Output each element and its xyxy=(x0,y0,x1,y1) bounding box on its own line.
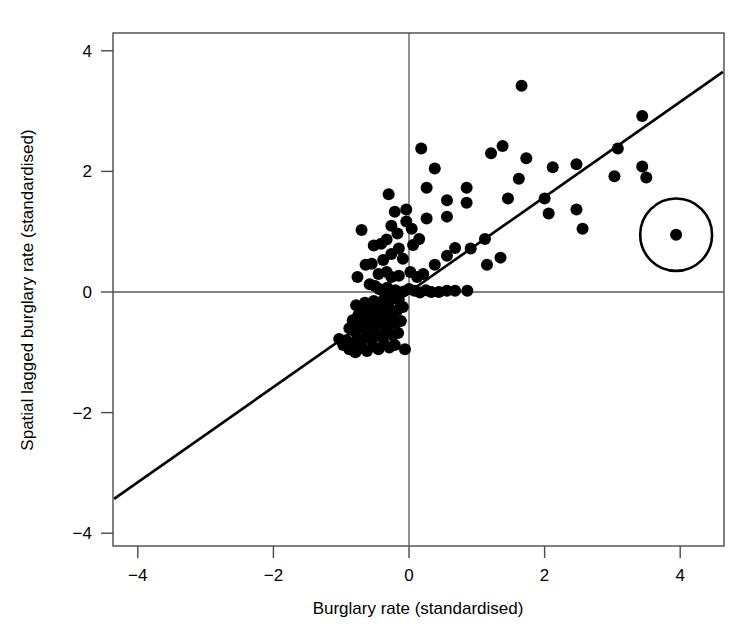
data-point xyxy=(429,259,441,271)
data-point xyxy=(400,203,412,215)
data-point xyxy=(497,140,509,152)
data-point xyxy=(441,211,453,223)
data-point xyxy=(461,182,473,194)
data-point xyxy=(608,170,620,182)
data-point xyxy=(421,212,433,224)
data-point xyxy=(636,110,648,122)
data-point xyxy=(481,259,493,271)
data-point xyxy=(570,203,582,215)
x-axis-ticks: −4−2024 xyxy=(128,546,685,585)
data-point xyxy=(479,233,491,245)
data-point xyxy=(429,162,441,174)
data-point xyxy=(570,158,582,170)
data-point xyxy=(415,142,427,154)
data-point xyxy=(397,253,409,265)
y-axis-title: Spatial lagged burglary rate (standardis… xyxy=(18,129,37,450)
data-point xyxy=(577,223,589,235)
data-point xyxy=(636,161,648,173)
data-point xyxy=(547,161,559,173)
data-point xyxy=(356,224,368,236)
moran-scatterplot: −4−2024 −4−2024 Burglary rate (standardi… xyxy=(0,0,753,639)
data-point xyxy=(406,223,418,235)
y-tick-label: 2 xyxy=(83,162,92,181)
data-point xyxy=(502,193,514,205)
data-point xyxy=(343,322,355,334)
y-tick-label: 4 xyxy=(83,42,92,61)
data-point xyxy=(461,197,473,209)
x-tick-label: −4 xyxy=(128,566,147,585)
x-tick-label: 0 xyxy=(404,566,413,585)
y-tick-label: −4 xyxy=(73,524,92,543)
x-tick-label: 4 xyxy=(675,566,684,585)
data-point xyxy=(368,240,380,252)
data-point xyxy=(383,188,395,200)
data-point xyxy=(670,229,682,241)
data-point xyxy=(516,80,528,92)
data-point xyxy=(393,270,405,282)
data-point xyxy=(640,171,652,183)
data-point xyxy=(377,254,389,266)
data-point xyxy=(485,147,497,159)
data-point xyxy=(449,285,461,297)
data-points-group xyxy=(333,80,682,359)
data-point xyxy=(413,233,425,245)
scatter-plot-figure: −4−2024 −4−2024 Burglary rate (standardi… xyxy=(0,0,753,639)
data-point xyxy=(520,152,532,164)
regression-fit-line xyxy=(114,72,723,499)
data-point xyxy=(465,243,477,255)
y-tick-label: −2 xyxy=(73,404,92,423)
data-point xyxy=(399,343,411,355)
data-point xyxy=(612,142,624,154)
data-point xyxy=(333,333,345,345)
data-point xyxy=(539,193,551,205)
data-point xyxy=(513,173,525,185)
data-point xyxy=(495,252,507,264)
data-point xyxy=(360,259,372,271)
data-point xyxy=(461,285,473,297)
y-tick-label: 0 xyxy=(83,283,92,302)
data-point xyxy=(417,268,429,280)
x-axis-title: Burglary rate (standardised) xyxy=(313,599,524,618)
data-point xyxy=(449,242,461,254)
x-tick-label: 2 xyxy=(540,566,549,585)
y-axis-ticks: −4−2024 xyxy=(73,42,113,543)
data-point xyxy=(421,182,433,194)
data-point xyxy=(543,208,555,220)
data-point xyxy=(351,271,363,283)
data-point xyxy=(391,228,403,240)
data-point xyxy=(441,194,453,206)
x-tick-label: −2 xyxy=(264,566,283,585)
data-point xyxy=(350,299,362,311)
data-point xyxy=(389,206,401,218)
